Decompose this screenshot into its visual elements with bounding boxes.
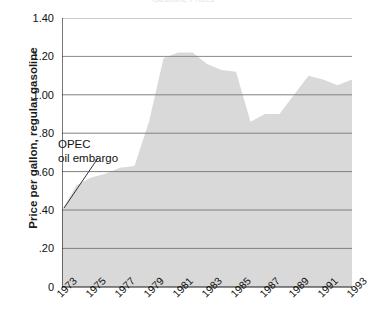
x-tick-label-1993: 1993 [344, 274, 369, 299]
x-tick-label-1975: 1975 [83, 274, 108, 299]
x-tick-label-1977: 1977 [112, 274, 137, 299]
x-tick-label-1979: 1979 [141, 274, 166, 299]
x-tick-label-1973: 1973 [54, 274, 79, 299]
x-tick-label-1989: 1989 [286, 274, 311, 299]
x-tick-label-1991: 1991 [315, 274, 340, 299]
x-tick-label-1987: 1987 [257, 274, 282, 299]
x-tick-label-1985: 1985 [228, 274, 253, 299]
x-tick-label-1981: 1981 [170, 274, 195, 299]
x-tick-label-1983: 1983 [199, 274, 224, 299]
